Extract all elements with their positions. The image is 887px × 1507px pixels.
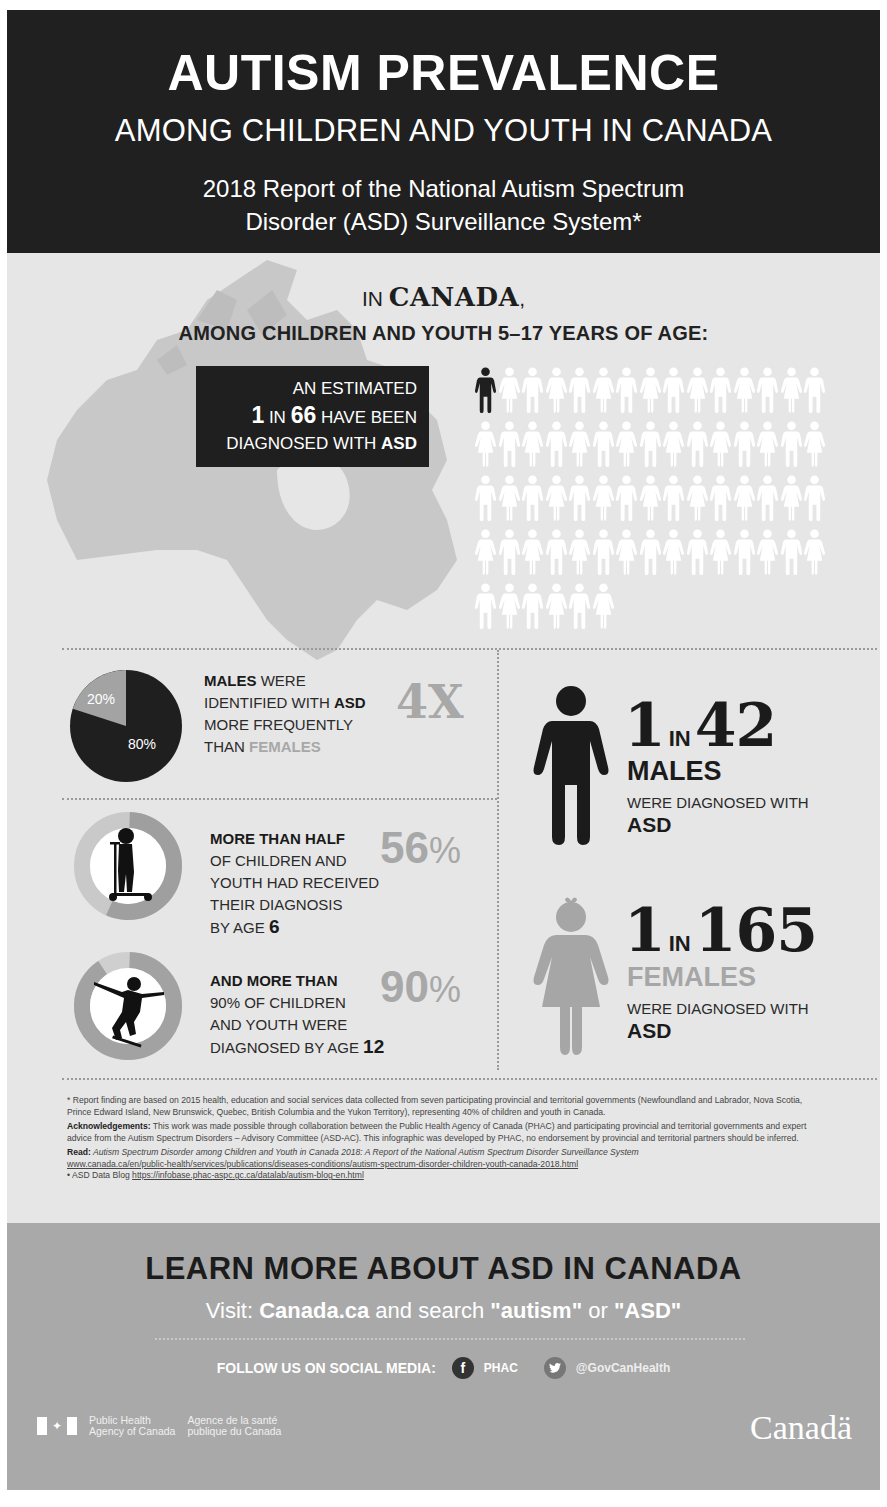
pct-56: 56% bbox=[380, 823, 461, 873]
child-figure-icon bbox=[474, 528, 498, 576]
child-figure-icon bbox=[592, 366, 616, 414]
child-figure-icon bbox=[686, 528, 710, 576]
child-figure-icon bbox=[615, 420, 639, 468]
child-figure-icon bbox=[756, 474, 780, 522]
child-figure-icon bbox=[662, 528, 686, 576]
report-title: 2018 Report of the National Autism Spect… bbox=[7, 172, 880, 238]
twitter-handle[interactable]: @GovCanHealth bbox=[576, 1361, 670, 1375]
report-link[interactable]: www.canada.ca/en/public-health/services/… bbox=[67, 1159, 578, 1169]
child-figure-icon bbox=[521, 582, 545, 630]
child-figure-icon bbox=[545, 474, 569, 522]
child-figure-icon bbox=[780, 366, 804, 414]
blog-link[interactable]: https://infobase.phac-aspc.gc.ca/datalab… bbox=[132, 1170, 364, 1180]
learn-more-heading: LEARN MORE ABOUT ASD IN CANADA bbox=[7, 1251, 880, 1287]
child-figure-icon bbox=[709, 366, 733, 414]
sex-ratio-text: MALES WERE IDENTIFIED WITH ASD MORE FREQ… bbox=[204, 670, 366, 758]
child-figure-icon bbox=[545, 528, 569, 576]
child-figure-icon bbox=[639, 474, 663, 522]
males-sub: WERE DIAGNOSED WITH bbox=[627, 792, 809, 813]
child-figure-icon bbox=[568, 420, 592, 468]
canada-ca-link[interactable]: Canada.ca bbox=[259, 1298, 369, 1323]
divider bbox=[155, 1338, 745, 1340]
child-figure-icon bbox=[780, 528, 804, 576]
child-figure-icon bbox=[662, 366, 686, 414]
child-figure-icon bbox=[780, 474, 804, 522]
page-title: AUTISM PREVALENCE bbox=[7, 44, 880, 102]
child-figure-icon bbox=[568, 366, 592, 414]
child-figure-icon bbox=[521, 474, 545, 522]
child-figure-icon bbox=[521, 420, 545, 468]
child-figure-icon bbox=[498, 474, 522, 522]
child-figure-icon bbox=[568, 528, 592, 576]
child-figure-icon bbox=[568, 474, 592, 522]
pct-90: 90% bbox=[380, 962, 461, 1012]
child-figure-icon bbox=[639, 420, 663, 468]
child-figure-icon bbox=[521, 528, 545, 576]
child-figure-icon bbox=[780, 420, 804, 468]
infographic-page: AUTISM PREVALENCE AMONG CHILDREN AND YOU… bbox=[7, 10, 880, 1490]
estimate-callout: AN ESTIMATED 1 IN 66 HAVE BEEN DIAGNOSED… bbox=[196, 366, 429, 467]
agency-name-en: Public Health Agency of Canada bbox=[89, 1415, 175, 1437]
child-figure-icon bbox=[686, 366, 710, 414]
child-figure-icon bbox=[733, 366, 757, 414]
child-figure-icon bbox=[615, 366, 639, 414]
child-figure-icon bbox=[615, 474, 639, 522]
child-figure-icon bbox=[592, 474, 616, 522]
child-figure-icon bbox=[662, 474, 686, 522]
footnote-data-source: * Report finding are based on 2015 healt… bbox=[67, 1095, 827, 1118]
learn-more-band: LEARN MORE ABOUT ASD IN CANADA Visit: Ca… bbox=[7, 1223, 880, 1490]
divider bbox=[62, 798, 497, 800]
pie-label-male: 80% bbox=[128, 736, 156, 752]
age-12-text: AND MORE THAN 90% OF CHILDREN AND YOUTH … bbox=[210, 970, 384, 1059]
pie-label-female: 20% bbox=[87, 691, 115, 707]
child-figure-icon bbox=[521, 366, 545, 414]
child-figure-icon bbox=[592, 528, 616, 576]
child-figure-icon bbox=[474, 474, 498, 522]
child-figure-icon bbox=[756, 528, 780, 576]
child-figure-icon bbox=[733, 420, 757, 468]
females-label: FEMALES bbox=[627, 962, 756, 993]
divider bbox=[497, 650, 499, 1070]
child-figure-icon bbox=[498, 528, 522, 576]
divider bbox=[62, 648, 877, 650]
child-figure-icon bbox=[686, 420, 710, 468]
child-figure-icon bbox=[498, 582, 522, 630]
child-figure-icon bbox=[545, 582, 569, 630]
footnotes: * Report finding are based on 2015 healt… bbox=[67, 1095, 827, 1185]
female-figure-icon bbox=[532, 895, 610, 1055]
visit-line: Visit: Canada.ca and search "autism" or … bbox=[7, 1298, 880, 1324]
child-figure-icon bbox=[568, 582, 592, 630]
child-figure-icon bbox=[803, 420, 827, 468]
pictogram-1-in-66 bbox=[474, 366, 834, 636]
agency-name-fr: Agence de la santé publique du Canada bbox=[187, 1415, 281, 1437]
phac-signature: ✦ Public Health Agency of Canada Agence … bbox=[37, 1415, 281, 1437]
canada-wordmark: Canadä bbox=[750, 1409, 852, 1447]
child-figure-icon bbox=[709, 420, 733, 468]
age-range-heading: AMONG CHILDREN AND YOUTH 5–17 YEARS OF A… bbox=[7, 322, 880, 345]
canada-flag-icon: ✦ bbox=[37, 1417, 77, 1435]
child-figure-icon bbox=[756, 420, 780, 468]
age-12-donut-chart bbox=[72, 950, 184, 1062]
child-figure-icon bbox=[639, 528, 663, 576]
ratio-4x: 4X bbox=[396, 675, 464, 729]
females-sub: WERE DIAGNOSED WITH bbox=[627, 998, 809, 1019]
child-figure-icon bbox=[733, 528, 757, 576]
males-label: MALES bbox=[627, 756, 722, 787]
page-subtitle: AMONG CHILDREN AND YOUTH IN CANADA bbox=[7, 113, 880, 149]
child-figure-icon bbox=[709, 528, 733, 576]
divider bbox=[62, 1078, 877, 1080]
male-figure-icon bbox=[532, 685, 610, 845]
twitter-icon[interactable] bbox=[544, 1357, 566, 1379]
sex-ratio-pie-chart: 20% 80% bbox=[67, 667, 185, 785]
child-figure-icon bbox=[662, 420, 686, 468]
child-figure-icon bbox=[592, 582, 616, 630]
males-ratio: 1IN42 bbox=[624, 690, 776, 760]
child-figure-icon bbox=[709, 474, 733, 522]
facebook-icon[interactable]: f bbox=[452, 1357, 474, 1379]
child-figure-icon bbox=[803, 474, 827, 522]
child-figure-icon bbox=[545, 366, 569, 414]
intro-heading: IN CANADA, bbox=[7, 282, 880, 312]
age-6-donut-chart bbox=[72, 810, 184, 922]
facebook-handle[interactable]: PHAC bbox=[484, 1361, 518, 1375]
child-figure-icon bbox=[615, 528, 639, 576]
